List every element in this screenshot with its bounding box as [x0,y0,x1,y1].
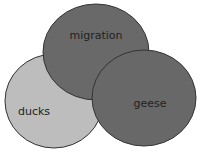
venn-diagram: ducks migration geese [0,0,202,155]
ducks-label: ducks [18,105,50,118]
geese-label: geese [133,97,166,110]
migration-label: migration [69,29,122,42]
